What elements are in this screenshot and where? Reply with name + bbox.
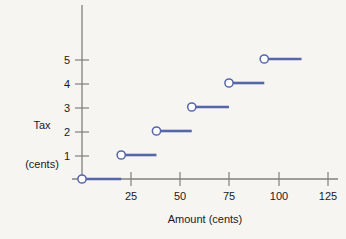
x-tick-labels-group: 25 50 75 100 125 — [125, 190, 337, 202]
step-endpoint-marker — [260, 55, 268, 63]
step-endpoint-marker — [225, 79, 233, 87]
y-axis-title-line1: Tax — [14, 119, 70, 132]
y-tick-label: 5 — [64, 54, 70, 66]
y-axis-title-line2: (cents) — [14, 158, 70, 171]
step-endpoint-marker — [188, 103, 196, 111]
x-axis-title: Amount (cents) — [125, 213, 285, 226]
x-tick-label: 125 — [319, 190, 337, 202]
axes-group — [72, 5, 338, 182]
step-endpoint-marker — [78, 175, 86, 183]
x-tick-label: 50 — [174, 190, 186, 202]
y-axis-title: Tax (cents) — [14, 93, 70, 197]
step-endpoint-marker — [152, 127, 160, 135]
x-tick-label: 100 — [270, 190, 288, 202]
y-tick-label: 4 — [64, 78, 70, 90]
chart-container: 25 50 75 100 125 1 2 3 4 5 Tax (cents) A… — [0, 0, 346, 239]
x-tick-label: 75 — [223, 190, 235, 202]
x-tick-label: 25 — [125, 190, 137, 202]
step-segments-group — [78, 55, 302, 183]
step-endpoint-marker — [117, 151, 125, 159]
